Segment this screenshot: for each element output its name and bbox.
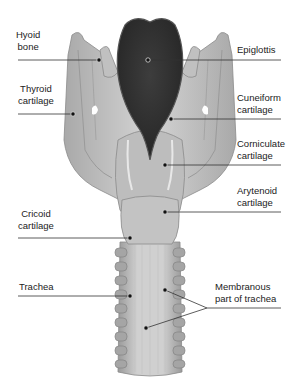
label-thyroid-cartilage: Thyroid cartilage <box>18 83 54 107</box>
label-membranous-trachea: Membranous part of trachea <box>215 281 276 305</box>
label-line: Hyoid <box>16 29 40 41</box>
label-cuneiform-cartilage: Cuneiform cartilage <box>237 92 281 116</box>
label-line: Corniculate <box>237 138 285 150</box>
label-line: cartilage <box>18 95 54 107</box>
label-line: part of trachea <box>215 293 276 305</box>
label-line: Cuneiform <box>237 92 281 104</box>
label-line: bone <box>16 41 40 53</box>
label-line: Membranous <box>215 281 276 293</box>
label-line: Trachea <box>19 281 54 293</box>
label-line: Epiglottis <box>237 44 276 56</box>
label-epiglottis: Epiglottis <box>237 44 276 56</box>
label-line: Arytenoid <box>237 185 277 197</box>
trachea <box>115 242 185 376</box>
label-line: Cricoid <box>18 208 54 220</box>
label-line: cartilage <box>18 220 54 232</box>
label-arytenoid-cartilage: Arytenoid cartilage <box>237 185 277 209</box>
label-corniculate-cartilage: Corniculate cartilage <box>237 138 285 162</box>
label-line: cartilage <box>237 150 285 162</box>
label-trachea: Trachea <box>19 281 54 293</box>
label-hyoid-bone: Hyoid bone <box>16 29 40 53</box>
label-line: cartilage <box>237 104 281 116</box>
label-line: Thyroid <box>18 83 54 95</box>
label-cricoid-cartilage: Cricoid cartilage <box>18 208 54 232</box>
label-line: cartilage <box>237 197 277 209</box>
